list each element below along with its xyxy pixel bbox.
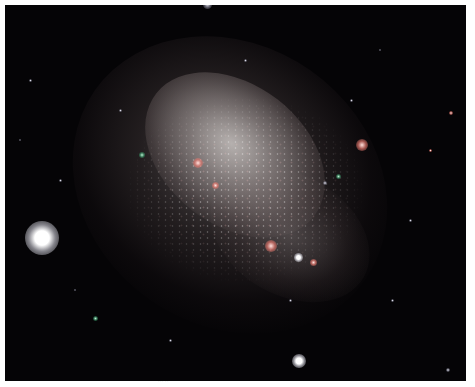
hii-region-right (356, 139, 368, 151)
star-small-14 (74, 289, 76, 291)
star-top (203, 5, 212, 9)
star-small-2 (350, 99, 353, 102)
hii-region-lower-2 (294, 253, 303, 262)
star-small-15 (379, 49, 381, 51)
star-small-5 (449, 111, 453, 115)
green-star-3 (93, 316, 98, 321)
green-star-2 (336, 174, 341, 179)
star-small-10 (391, 299, 394, 302)
hii-region-lower (265, 240, 277, 252)
star-small-7 (409, 219, 412, 222)
star-small-3 (244, 59, 247, 62)
bright-star-left (25, 221, 59, 255)
star-small-9 (29, 79, 32, 82)
bright-star-bottom (292, 354, 306, 368)
star-small-13 (289, 299, 292, 302)
image-caption: ··· ·· (158, 379, 169, 384)
galaxy-image (5, 5, 466, 381)
hii-region-core (193, 158, 203, 168)
green-star-1 (139, 152, 145, 158)
star-small-8 (169, 339, 172, 342)
star-small-6 (446, 368, 450, 372)
star-small-1 (323, 181, 327, 185)
star-small-4 (59, 179, 62, 182)
hii-region-edge (310, 259, 317, 266)
star-small-11 (119, 109, 122, 112)
galaxy-star-speckle (85, 55, 405, 335)
star-small-12 (429, 149, 432, 152)
hii-region-core-2 (212, 182, 219, 189)
star-small-16 (19, 139, 21, 141)
